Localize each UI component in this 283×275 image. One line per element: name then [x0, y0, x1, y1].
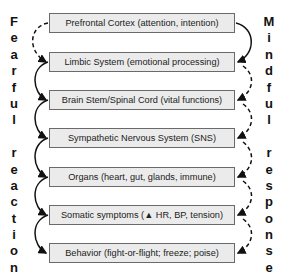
dashed-arrow-right [238, 104, 252, 138]
box-somatic-symptoms: Somatic symptoms (▲ HR, BP, tension) [49, 205, 235, 225]
solid-arrow-left [35, 62, 48, 100]
solid-arrow-left [35, 138, 48, 177]
box-organs: Organs (heart, gut, glands, immune) [49, 167, 235, 187]
dashed-arrow-right [238, 181, 252, 215]
box-prefrontal-cortex: Prefrontal Cortex (attention, intention) [49, 13, 235, 33]
dashed-arrow-left [33, 23, 48, 62]
dashed-arrow-right [238, 219, 252, 253]
dashed-arrow-right [238, 142, 252, 177]
solid-arrow-left [35, 100, 48, 138]
solid-arrow-left [35, 215, 48, 253]
box-behavior: Behavior (fight-or-flight; freeze; poise… [49, 243, 235, 263]
dashed-arrow-right [238, 66, 252, 100]
solid-arrow-right [236, 23, 251, 62]
solid-arrow-left [35, 177, 48, 215]
box-sns: Sympathetic Nervous System (SNS) [49, 128, 235, 148]
box-brain-stem: Brain Stem/Spinal Cord (vital functions) [49, 90, 235, 110]
box-limbic-system: Limbic System (emotional processing) [49, 52, 235, 72]
